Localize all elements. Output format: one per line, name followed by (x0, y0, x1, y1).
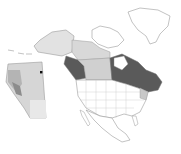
greenland-region (128, 8, 170, 44)
arctic-archipelago (92, 26, 124, 48)
aleutian-islands (8, 50, 32, 54)
record-point-icon (40, 71, 42, 73)
alberta-inset-south-light (30, 100, 46, 118)
alaska-region (34, 30, 74, 56)
alberta-inset (6, 62, 46, 118)
north-america-map (0, 0, 181, 154)
florida-region (132, 116, 138, 126)
